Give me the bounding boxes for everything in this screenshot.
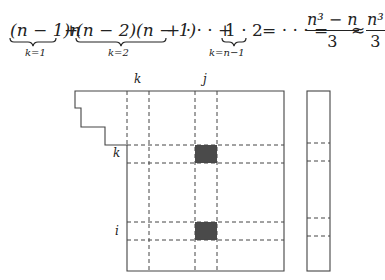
label-col-k: k [134, 72, 141, 86]
label-row-i: i [115, 224, 119, 238]
label-col-j: j [203, 72, 207, 86]
lower-triangular-outline [75, 91, 284, 271]
vector-strip [307, 91, 330, 271]
block-k-j [195, 145, 217, 163]
block-i-j [195, 222, 217, 240]
label-row-k: k [113, 146, 120, 160]
grid-dashed-lines [127, 91, 284, 271]
vector-dashed-lines [307, 143, 330, 236]
